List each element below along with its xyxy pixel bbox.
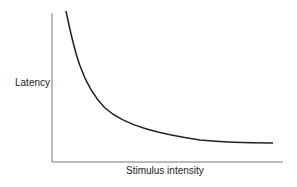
chart-canvas bbox=[0, 0, 297, 187]
y-axis-label: Latency bbox=[15, 77, 50, 88]
x-axis-label: Stimulus intensity bbox=[126, 165, 204, 176]
latency-curve bbox=[66, 11, 273, 143]
